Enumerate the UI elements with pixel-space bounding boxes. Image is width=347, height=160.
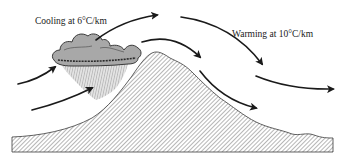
- warming-label: Warming at 10°C/km: [232, 30, 313, 40]
- cooling-label: Cooling at 6°C/km: [35, 17, 107, 27]
- arrow-leeward-far-icon: [256, 76, 333, 89]
- arrow-windward-upper-icon: [18, 67, 55, 84]
- orographic-diagram: Cooling at 6°C/km Warming at 10°C/km: [0, 0, 347, 160]
- arrow-windward-lower-icon: [32, 88, 92, 110]
- arrow-leeward-long-icon: [181, 17, 262, 64]
